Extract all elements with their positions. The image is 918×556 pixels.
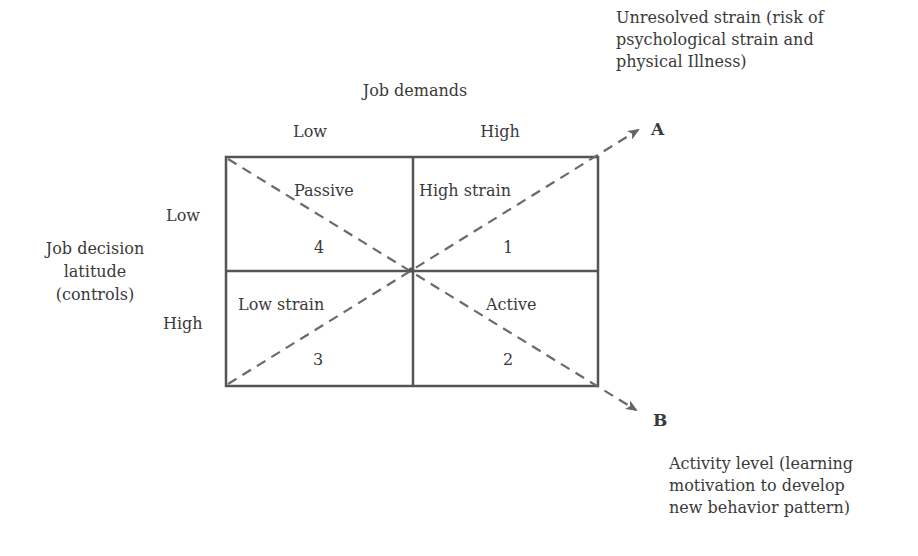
arrow-b-description: Activity level (learning motivation to d… — [669, 453, 853, 519]
x-axis-high-label: High — [470, 121, 530, 143]
quadrant-high-strain-label: High strain — [419, 180, 511, 202]
arrow-a-letter: A — [651, 118, 664, 140]
y-axis-low-label: Low — [166, 205, 200, 227]
x-axis-title: Job demands — [345, 80, 485, 102]
y-axis-title: Job decision latitude (controls) — [30, 237, 160, 306]
quadrant-passive-number: 4 — [314, 237, 324, 259]
y-axis-high-label: High — [163, 313, 203, 335]
quadrant-high-strain-number: 1 — [503, 237, 513, 259]
x-axis-low-label: Low — [280, 121, 340, 143]
arrow-a-description: Unresolved strain (risk of psychological… — [616, 7, 824, 73]
arrow-a-diagonal — [228, 130, 638, 384]
quadrant-active-label: Active — [486, 294, 537, 316]
quadrant-low-strain-number: 3 — [313, 349, 323, 371]
center-point — [409, 268, 414, 273]
quadrant-passive-label: Passive — [294, 180, 354, 202]
quadrant-active-number: 2 — [503, 349, 513, 371]
arrow-b-letter: B — [653, 409, 667, 431]
quadrant-low-strain-label: Low strain — [238, 294, 324, 316]
